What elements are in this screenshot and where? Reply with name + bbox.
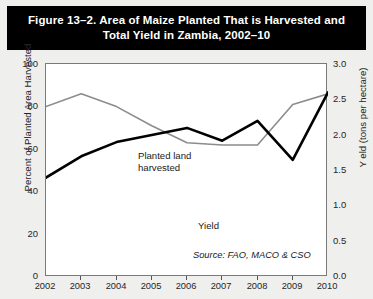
left-tick-label-60: 60	[4, 143, 38, 154]
figure-title-line-1: Figure 13–2. Area of Maize Planted That …	[28, 13, 345, 28]
left-axis-title: Percent of Planted Area Harvested	[22, 28, 33, 208]
series-label-yield: Yield	[198, 220, 219, 232]
series-label-planted-land-harvested: Planted land harvested	[138, 150, 191, 173]
x-tick-label-2004: 2004	[96, 281, 136, 291]
x-tick-label-2002: 2002	[25, 281, 65, 291]
right-tick-label-1-5: 1.5	[333, 164, 367, 175]
x-tick-label-2009: 2009	[272, 281, 312, 291]
series-line-planted-land-harvested	[46, 94, 328, 145]
figure-container: Figure 13–2. Area of Maize Planted That …	[0, 0, 373, 299]
left-tick-label-40: 40	[4, 185, 38, 196]
left-tick-label-0: 0	[4, 270, 38, 281]
plot-area: Planted land harvested Yield	[45, 63, 327, 276]
left-tick-label-100: 100	[4, 58, 38, 69]
x-tick-label-2007: 2007	[201, 281, 241, 291]
right-tick-label-1-0: 1.0	[333, 199, 367, 210]
right-tick-label-3-0: 3.0	[333, 58, 367, 69]
x-tick-label-2006: 2006	[166, 281, 206, 291]
x-tick-label-2010: 2010	[307, 281, 347, 291]
right-tick-label-0-0: 0.0	[333, 270, 367, 281]
right-tick-label-0-5: 0.5	[333, 235, 367, 246]
left-tick-label-80: 80	[4, 100, 38, 111]
right-axis-title: Y eld (tons per hectare)	[357, 28, 368, 208]
series-label-planted-line2: harvested	[138, 162, 180, 173]
x-tick-label-2008: 2008	[237, 281, 277, 291]
x-tick-label-2005: 2005	[131, 281, 171, 291]
series-label-planted-line1: Planted land	[138, 150, 191, 161]
right-tick-label-2-0: 2.0	[333, 129, 367, 140]
source-note: Source: FAO, MACO & CSO	[193, 250, 311, 260]
left-tick-label-20: 20	[4, 228, 38, 239]
figure-title-banner: Figure 13–2. Area of Maize Planted That …	[7, 6, 366, 50]
right-tick-label-2-5: 2.5	[333, 93, 367, 104]
figure-title-line-2: Total Yield in Zambia, 2002–10	[103, 28, 271, 43]
x-tick-label-2003: 2003	[60, 281, 100, 291]
